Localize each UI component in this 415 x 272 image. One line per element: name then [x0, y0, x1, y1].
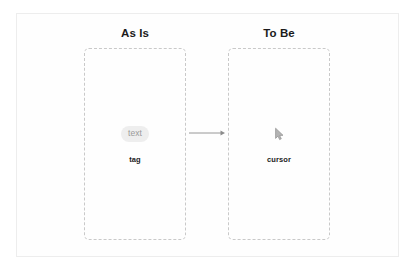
node-cursor-symbol: [228, 123, 330, 145]
node-tag-symbol: text: [84, 123, 186, 145]
column-heading-as-is: As Is: [65, 26, 205, 40]
column-heading-to-be: To Be: [209, 26, 349, 40]
node-tag-label: tag: [84, 155, 186, 165]
node-tag[interactable]: text tag: [84, 123, 186, 165]
arrow-right-icon: [188, 126, 226, 140]
diagram-canvas: As Is To Be text tag cursor: [0, 0, 415, 272]
cursor-icon: [273, 127, 286, 141]
node-cursor-label: cursor: [228, 155, 330, 165]
text-tag-pill: text: [121, 126, 149, 142]
node-cursor[interactable]: cursor: [228, 123, 330, 165]
